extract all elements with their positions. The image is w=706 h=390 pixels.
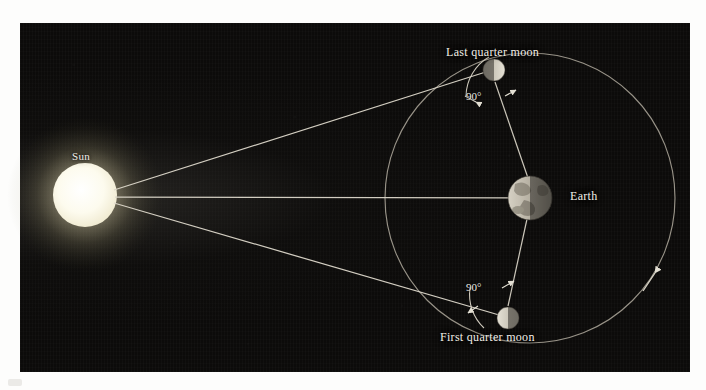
sunray-to-earth (115, 197, 530, 198)
sightline-earth-first-quarter (508, 219, 527, 306)
orbit-direction-arrow (643, 273, 655, 291)
sightline-earth-last-quarter (495, 82, 528, 178)
diagram-canvas (0, 0, 706, 390)
last-quarter-moon-body (483, 59, 505, 81)
sunray-to-last-quarter-moon (114, 70, 492, 190)
sun-disc (53, 163, 117, 227)
sunray-to-first-quarter-moon (114, 203, 506, 317)
sunlight-rays (114, 70, 530, 317)
figure-root: Sun Earth Last quarter moon First quarte… (0, 0, 706, 390)
first-quarter-moon-body (497, 307, 519, 329)
scan-artifact-mark (8, 379, 22, 386)
earth-body (508, 176, 552, 220)
